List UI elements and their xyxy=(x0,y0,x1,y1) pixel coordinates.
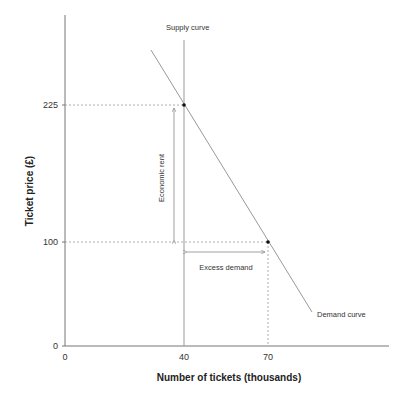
demand-curve-label: Demand curve xyxy=(317,310,366,319)
excess-demand-label: Excess demand xyxy=(199,263,252,272)
economic-rent-label: Economic rent xyxy=(157,153,166,202)
y-tick-100: 100 xyxy=(43,237,58,247)
supply-curve-label: Supply curve xyxy=(166,23,209,32)
y-axis-title: Ticket price (£) xyxy=(24,156,35,226)
x-tick-0: 0 xyxy=(62,352,67,362)
equilibrium-point xyxy=(182,103,186,107)
chart: Supply curve Demand curve Economic rent … xyxy=(0,0,415,398)
y-tick-0: 0 xyxy=(53,341,58,351)
demand-point-70 xyxy=(266,240,270,244)
demand-curve xyxy=(151,50,312,312)
x-tick-40: 40 xyxy=(179,352,189,362)
x-tick-70: 70 xyxy=(263,352,273,362)
y-tick-225: 225 xyxy=(43,100,58,110)
x-axis-title: Number of tickets (thousands) xyxy=(157,372,301,383)
